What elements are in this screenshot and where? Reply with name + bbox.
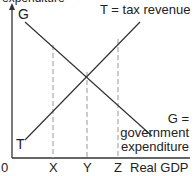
x-axis-label: Real GDP <box>130 161 189 175</box>
t-legend: T = tax revenue <box>100 3 190 17</box>
x-tick-z: Z <box>114 161 122 175</box>
t-line <box>25 22 140 140</box>
g-legend-line2: government <box>120 126 189 140</box>
g-line <box>25 22 152 136</box>
x-tick-x: X <box>49 161 58 175</box>
g-start-label: G <box>18 7 29 21</box>
t-start-label: T <box>16 137 25 151</box>
g-legend-line1: G = <box>168 112 189 126</box>
g-legend-line3: expenditure <box>121 140 189 154</box>
y-axis-label: expenditure <box>2 0 65 5</box>
origin-label: 0 <box>1 161 8 175</box>
x-tick-y: Y <box>83 161 92 175</box>
